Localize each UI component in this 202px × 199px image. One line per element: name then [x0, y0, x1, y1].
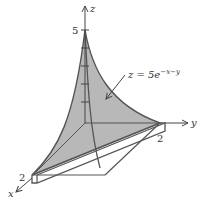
- y-tick-label: 2: [157, 133, 163, 144]
- surface-z-5e-x-y: [32, 30, 160, 175]
- x-tick-label: 2: [19, 172, 25, 183]
- x-axis: x 2: [8, 172, 32, 199]
- z-axis-label: z: [89, 3, 96, 14]
- x-axis-label: x: [8, 188, 14, 199]
- z-tick-label: 5: [72, 25, 78, 36]
- y-axis-label: y: [190, 117, 197, 128]
- equation-label: z = 5e−x−y: [127, 68, 181, 80]
- equation-annotation: z = 5e−x−y: [106, 68, 181, 99]
- surface-plot: z 5 y 2 x 2 z = 5e−x−y: [0, 0, 202, 199]
